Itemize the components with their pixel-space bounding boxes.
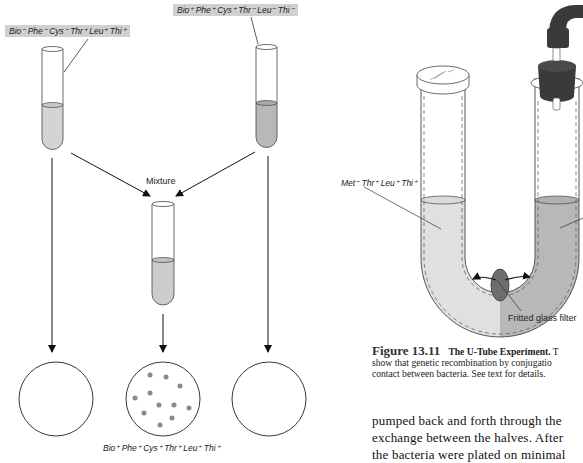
arrow-b-to-mixture xyxy=(176,152,255,196)
liquid-surface-right xyxy=(535,196,579,204)
cotton-plug-cap xyxy=(417,66,469,94)
body-line1: pumped back and forth through the xyxy=(372,412,566,429)
body-paragraph: pumped back and forth through the exchan… xyxy=(372,412,566,463)
caption-title: The U-Tube Experiment. xyxy=(448,346,550,357)
test-tube-strain-b xyxy=(256,45,277,148)
test-tube-mixture xyxy=(152,202,174,306)
u-tube-inner-wall xyxy=(465,78,535,293)
rubber-stopper xyxy=(531,5,583,110)
arrow-a-to-mixture xyxy=(71,153,150,196)
mixture-label: Mixture xyxy=(146,176,176,186)
liquid-surface-left xyxy=(421,196,465,204)
strain-a-leader-line xyxy=(64,39,88,72)
caption-line2: show that genetic recombination by conju… xyxy=(372,357,583,368)
filter-label: Fritted glass filter xyxy=(508,313,577,323)
plate-strain-b xyxy=(232,362,306,436)
body-line3: the bacteria were plated on minimal xyxy=(372,446,566,463)
strain-a-genotype-label: Bio⁻ Phe⁻ Cys⁻ Thr⁺ Leu⁺ Thi⁺ xyxy=(5,25,130,37)
caption-line3: contact between bacteria. See text for d… xyxy=(372,368,583,379)
test-tube-strain-a xyxy=(42,47,63,150)
left-arm-genotype-label: Met⁻ Thr⁺ Leu⁺ Thi⁺ xyxy=(341,178,417,188)
strain-b-genotype-label: Bio⁺ Phe⁺ Cys⁺ Thr⁻ Leu⁻ Thi⁻ xyxy=(173,4,298,16)
fritted-glass-filter xyxy=(491,269,509,301)
figure-caption: Figure 13.11The U-Tube Experiment. T sho… xyxy=(372,345,583,379)
body-line2: exchange between the halves. After xyxy=(372,429,566,446)
caption-line1-rest: T xyxy=(551,346,559,357)
strain-b-leader-line xyxy=(251,17,258,44)
recombinant-genotype-label: Bio⁺ Phe⁺ Cys⁺ Thr⁺ Leu⁺ Thi⁺ xyxy=(103,443,220,453)
plate-strain-a xyxy=(19,362,93,436)
figure-number: Figure 13.11 xyxy=(372,343,440,358)
